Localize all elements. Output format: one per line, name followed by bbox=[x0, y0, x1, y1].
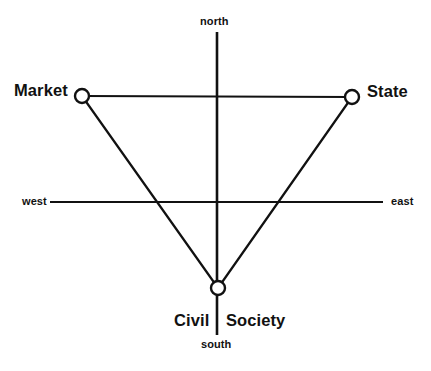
node-label-state: State bbox=[367, 83, 408, 100]
node-market-circle[interactable] bbox=[75, 89, 89, 103]
diagram-canvas: Market State Civil Society north south w… bbox=[0, 0, 431, 371]
compass-label-north: north bbox=[200, 16, 229, 27]
edge-state-civil-society bbox=[218, 97, 352, 288]
node-state-circle[interactable] bbox=[345, 90, 359, 104]
node-civil-society-circle[interactable] bbox=[211, 281, 225, 295]
node-label-civil: Civil bbox=[174, 312, 209, 329]
compass-label-south: south bbox=[201, 339, 231, 350]
node-label-society: Society bbox=[226, 312, 285, 329]
compass-label-west: west bbox=[22, 196, 47, 207]
edge-market-civil-society bbox=[82, 96, 218, 288]
compass-label-east: east bbox=[391, 196, 413, 207]
triangle-diagram-graphic bbox=[0, 0, 431, 371]
node-label-market: Market bbox=[14, 82, 68, 99]
edge-market-state bbox=[82, 96, 352, 97]
